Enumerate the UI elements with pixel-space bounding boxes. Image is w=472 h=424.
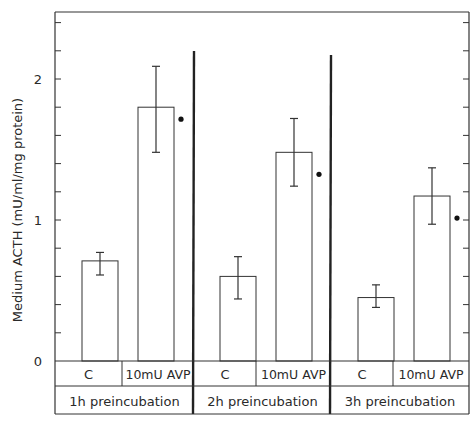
group-label: 2h preincubation	[207, 394, 317, 409]
group-dividers	[193, 51, 331, 414]
group-label: 1h preincubation	[69, 394, 179, 409]
bar-chart: 012 C10mU AVP1h preincubationC10mU AVP2h…	[0, 0, 472, 424]
y-tick-label: 1	[34, 213, 42, 228]
divider-2h-3h	[330, 55, 331, 414]
category-label-control: C	[220, 367, 229, 382]
category-table: C10mU AVP1h preincubationC10mU AVP2h pre…	[55, 361, 469, 414]
y-tick-label: 2	[34, 72, 42, 87]
bar-control	[82, 261, 118, 361]
category-label-avp: 10mU AVP	[125, 367, 191, 382]
plot-frame	[55, 12, 469, 414]
category-label-control: C	[84, 367, 93, 382]
group-label: 3h preincubation	[345, 394, 455, 409]
significance-marker	[454, 215, 459, 220]
y-tick-label: 0	[34, 354, 42, 369]
category-label-avp: 10mU AVP	[261, 367, 327, 382]
significance-marker	[316, 172, 321, 177]
y-axis-label: Medium ACTH (mU/ml/mg protein)	[10, 98, 25, 322]
bars	[82, 66, 460, 361]
category-label-control: C	[357, 367, 366, 382]
divider-1h-2h	[193, 51, 194, 414]
significance-marker	[178, 117, 183, 122]
category-label-avp: 10mU AVP	[398, 367, 464, 382]
y-axis: 012	[34, 23, 469, 369]
